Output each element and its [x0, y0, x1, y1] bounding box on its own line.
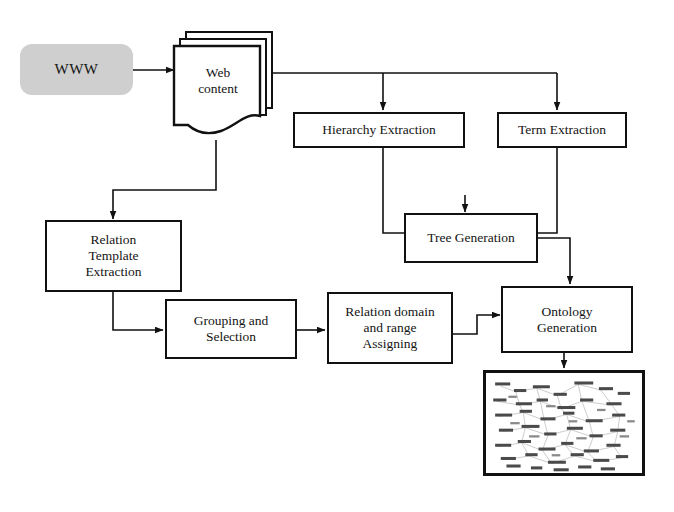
- ontology-generation-line1: Ontology: [537, 304, 597, 320]
- node-ontology-graph-output[interactable]: [483, 370, 645, 476]
- node-web-content[interactable]: Web content: [176, 46, 260, 116]
- flowchart-canvas: WWW Web content Hierarchy Extraction Ter…: [0, 0, 674, 512]
- node-hierarchy-extraction-label: Hierarchy Extraction: [322, 122, 436, 138]
- node-web-content-label-line2: content: [198, 81, 238, 97]
- node-term-extraction[interactable]: Term Extraction: [497, 112, 627, 148]
- edge-tree-to-ontology: [538, 238, 570, 284]
- node-web-content-label-line1: Web: [198, 65, 238, 81]
- node-grouping-and-selection[interactable]: Grouping and Selection: [165, 299, 297, 359]
- node-hierarchy-extraction[interactable]: Hierarchy Extraction: [293, 112, 465, 148]
- relation-domain-line2: and range: [345, 320, 435, 336]
- ontology-graph-icon: [486, 373, 642, 473]
- ontology-generation-line2: Generation: [537, 320, 597, 336]
- node-ontology-generation-label: Ontology Generation: [537, 304, 597, 336]
- relation-template-line1: Relation: [85, 232, 141, 248]
- relation-template-line2: Template: [85, 248, 141, 264]
- node-grouping-and-selection-label: Grouping and Selection: [194, 313, 269, 345]
- node-www-label: WWW: [55, 61, 99, 79]
- relation-domain-line1: Relation domain: [345, 304, 435, 320]
- relation-domain-line3: Assigning: [345, 336, 435, 352]
- relation-template-line3: Extraction: [85, 264, 141, 280]
- node-web-content-label: Web content: [198, 65, 238, 97]
- edge-webcontent-to-relation-template: [113, 140, 216, 219]
- node-relation-template-extraction-label: Relation Template Extraction: [85, 232, 141, 280]
- node-ontology-generation[interactable]: Ontology Generation: [501, 286, 633, 353]
- node-term-extraction-label: Term Extraction: [518, 122, 606, 138]
- grouping-line2: Selection: [194, 329, 269, 345]
- node-relation-template-extraction[interactable]: Relation Template Extraction: [45, 220, 182, 292]
- node-tree-generation-label: Tree Generation: [427, 230, 515, 246]
- node-www[interactable]: WWW: [20, 44, 133, 95]
- node-relation-domain-range-assigning[interactable]: Relation domain and range Assigning: [327, 292, 453, 364]
- grouping-line1: Grouping and: [194, 313, 269, 329]
- node-tree-generation[interactable]: Tree Generation: [404, 213, 538, 263]
- node-relation-domain-range-assigning-label: Relation domain and range Assigning: [345, 304, 435, 352]
- edge-relation-domain-to-ontology: [453, 315, 500, 334]
